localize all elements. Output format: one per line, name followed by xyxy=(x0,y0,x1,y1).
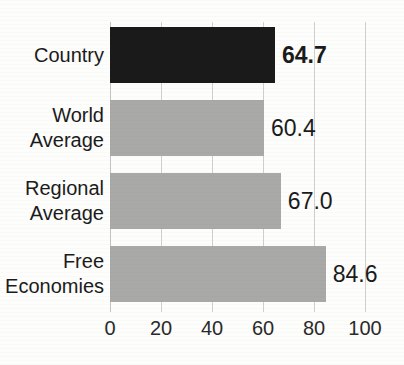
xtick-label-80: 80 xyxy=(303,318,325,338)
category-label-line: World xyxy=(52,103,104,128)
xtick-label-40: 40 xyxy=(201,318,223,338)
category-label-line: Average xyxy=(30,201,104,226)
bar-value-world-average: 60.4 xyxy=(271,117,316,140)
xtick-label-0: 0 xyxy=(104,318,115,338)
bar-value-country: 64.7 xyxy=(282,44,327,67)
bar-chart: Index of Economic Freedom 64.7 60.4 67.0… xyxy=(0,0,404,365)
xtick-label-60: 60 xyxy=(252,318,274,338)
category-label-line: Regional xyxy=(25,176,104,201)
chart-title: Index of Economic Freedom xyxy=(0,0,404,5)
bar-value-free-economies: 84.6 xyxy=(333,263,378,286)
category-label-line: Country xyxy=(34,43,104,68)
xtick-label-20: 20 xyxy=(150,318,172,338)
category-label-country: Country xyxy=(0,27,104,83)
xtick-label-100: 100 xyxy=(348,318,381,338)
category-label-regional-average: Regional Average xyxy=(0,173,104,229)
bar-country xyxy=(110,27,275,83)
category-label-line: Average xyxy=(30,128,104,153)
category-label-line: Free xyxy=(63,249,104,274)
category-label-line: Economies xyxy=(5,274,104,299)
plot-area: 64.7 60.4 67.0 84.6 xyxy=(110,22,365,312)
bar-world-average xyxy=(110,100,264,156)
category-label-world-average: World Average xyxy=(0,100,104,156)
bar-free-economies xyxy=(110,246,326,302)
bar-regional-average xyxy=(110,173,281,229)
chart-title-clipped: Index of Economic Freedom xyxy=(0,0,404,8)
category-label-free-economies: Free Economies xyxy=(0,246,104,302)
bar-value-regional-average: 67.0 xyxy=(288,190,333,213)
